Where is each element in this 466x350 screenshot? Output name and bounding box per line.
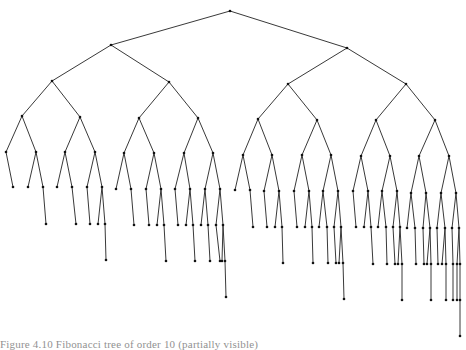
tree-edge [339,227,341,263]
tree-nodes [5,10,462,338]
tree-edge [452,193,456,228]
tree-edge [397,191,400,227]
tree-node [287,83,290,86]
tree-edge [186,189,190,225]
tree-node [459,263,462,266]
tree-edge [376,120,390,156]
tree-node [5,151,8,154]
tree-node [263,190,266,193]
tree-edge [184,118,198,153]
tree-node [330,154,333,157]
tree-node [335,262,338,265]
tree-node [45,223,48,226]
tree-edge [223,225,225,261]
tree-node [183,152,186,155]
tree-edge [282,227,283,263]
tree-edge [400,227,402,264]
tree-node [110,44,113,47]
tree-node [148,224,151,227]
tree-node [316,119,319,122]
tree-edge [411,193,415,228]
tree-node [194,260,197,263]
tree-edge [95,152,102,187]
tree-node [352,190,355,193]
tree-node [372,263,375,266]
tree-node [392,226,395,229]
tree-node [414,227,417,230]
tree-edge [6,116,22,152]
tree-edge [279,191,282,227]
tree-edge [423,228,424,264]
tree-edge [131,189,134,225]
tree-node [342,262,345,265]
tree-node [389,155,392,158]
tree-node [130,188,133,191]
tree-edge [193,225,195,261]
tree-edge [437,193,441,228]
tree-node [386,263,389,266]
tree-node [440,192,443,195]
tree-edge [201,189,205,225]
tree-edge [419,120,435,156]
tree-edge [305,191,309,227]
tree-edge [382,156,390,191]
tree-edge [161,189,164,225]
tree-node [221,260,224,263]
tree-node [340,226,343,229]
tree-edge [264,155,272,191]
tree-node [455,192,458,195]
tree-edge [393,227,395,264]
tree-edge [449,156,456,193]
tree-edge [243,155,250,190]
tree-node [322,190,325,193]
tree-edge [341,227,343,263]
tree-node [64,151,67,154]
tree-node [437,263,440,266]
tree-node [394,263,397,266]
tree-node [219,188,222,191]
tree-node [370,226,373,229]
tree-edge [184,153,190,189]
tree-node [425,192,428,195]
tree-edge [459,228,460,264]
tree-node [278,190,281,193]
tree-edge [398,227,400,264]
tree-edge [139,118,154,153]
tree-edge [406,84,435,120]
tree-node [343,298,346,301]
tree-edge [361,156,368,191]
tree-node [312,262,315,265]
tree-edge [72,187,76,224]
tree-edge [22,116,36,152]
tree-node [448,155,451,158]
tree-node [153,152,156,155]
tree-edge [52,45,111,81]
tree-node [27,186,30,189]
tree-node [333,226,336,229]
tree-edge [323,191,327,227]
tree-edge [441,156,449,193]
tree-edge [198,118,213,153]
tree-node [94,151,97,154]
tree-edge [435,120,449,156]
tree-node [451,227,454,230]
tree-node [363,226,366,229]
tree-node [399,226,402,229]
tree-node [97,223,100,226]
tree-edge [386,227,387,264]
tree-node [396,190,399,193]
tree-node [422,227,425,230]
tree-node [35,151,38,154]
tree-node [145,188,148,191]
tree-edge [52,81,80,117]
tree-edge [312,227,313,263]
tree-node [452,263,455,266]
tree-edge [208,225,210,261]
tree-node [327,262,330,265]
tree-node [304,226,307,229]
tree-node [281,226,284,229]
tree-node [266,226,269,229]
tree-edge [319,191,323,227]
tree-edge [87,152,95,187]
tree-node [222,224,225,227]
